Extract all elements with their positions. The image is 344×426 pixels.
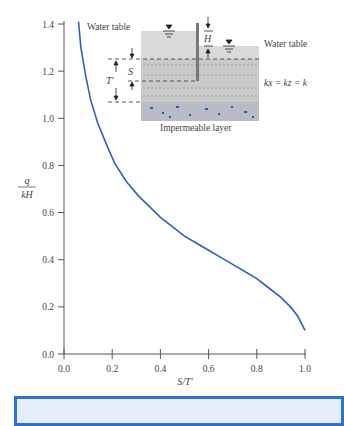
x-tick-label: 1.0 xyxy=(299,364,311,374)
svg-text:q: q xyxy=(25,175,30,186)
inset-s-label: S xyxy=(128,66,133,77)
y-tick-label: 1.0 xyxy=(42,114,54,124)
x-axis-label: S/T' xyxy=(177,376,193,387)
inset-impermeable-label: Impermeable layer xyxy=(160,123,232,133)
inset-t-label: T' xyxy=(106,75,115,86)
inset-water-table-left: Water table xyxy=(87,22,130,32)
y-tick-label: 0.0 xyxy=(42,350,54,360)
inset-h-label: H xyxy=(203,33,212,44)
y-axis-ticks: 0.00.20.40.60.81.01.21.4 xyxy=(42,20,64,360)
x-tick-label: 0.0 xyxy=(58,364,70,374)
y-tick-label: 0.4 xyxy=(42,255,54,265)
x-axis-ticks: 0.00.20.40.60.81.0 xyxy=(58,349,311,374)
inset-diagram: Water table Water table H S T' kx = kz =… xyxy=(87,17,308,133)
x-tick-label: 0.6 xyxy=(203,364,215,374)
inset-water-table-right: Water table xyxy=(264,39,307,49)
x-tick-label: 0.4 xyxy=(154,364,166,374)
y-tick-label: 1.2 xyxy=(42,67,54,77)
y-tick-label: 1.4 xyxy=(42,20,54,30)
y-axis-label: q kH xyxy=(18,175,36,200)
x-tick-label: 0.2 xyxy=(106,364,118,374)
x-tick-label: 0.8 xyxy=(251,364,263,374)
y-tick-label: 0.2 xyxy=(42,302,54,312)
inset-k-equation: kx = kz = k xyxy=(264,78,308,88)
y-tick-label: 0.6 xyxy=(42,208,54,218)
bottom-highlight-box xyxy=(14,396,344,426)
y-tick-label: 0.8 xyxy=(42,161,54,171)
svg-text:kH: kH xyxy=(21,189,33,200)
